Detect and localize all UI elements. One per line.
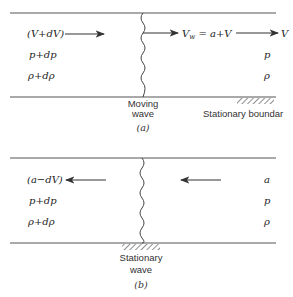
velocity-label-left-a: (V+dV): [27, 28, 64, 39]
caption-b: (b): [134, 279, 148, 290]
moving-wave-front: [141, 13, 145, 97]
density-label-right-a: ρ: [263, 70, 270, 81]
caption-a: (a): [136, 122, 149, 133]
wave-velocity-label: Vw = a+V: [182, 28, 233, 41]
stationary-boundary-hatch: [237, 98, 274, 104]
stationary-wave-label-line1: Stationary: [120, 252, 163, 263]
pressure-label-right-a: p: [264, 49, 271, 60]
stationary-wave-label-line2: wave: [129, 264, 152, 275]
pressure-label-left-b: p+dp: [29, 195, 57, 206]
pressure-label-left-a: p+dp: [29, 49, 57, 60]
panel-b: (a−dV) p+dp ρ+dρ a p ρ Stationary wave (…: [10, 158, 276, 290]
velocity-label-right-a: V: [281, 28, 290, 39]
panel-a: (V+dV) p+dp ρ+dρ Vw = a+V V p ρ Moving w…: [10, 13, 290, 133]
velocity-label-left-b: (a−dV): [27, 174, 63, 185]
velocity-label-right-b: a: [264, 174, 270, 185]
density-label-right-b: ρ: [263, 216, 270, 227]
shock-wave-diagram: (V+dV) p+dp ρ+dρ Vw = a+V V p ρ Moving w…: [0, 0, 293, 297]
stationary-wave-hatch: [122, 244, 160, 250]
density-label-left-b: ρ+dρ: [27, 216, 55, 227]
stationary-boundary-label: Stationary boundar: [203, 108, 283, 119]
pressure-label-right-b: p: [264, 195, 271, 206]
moving-wave-label-line2: wave: [131, 108, 154, 119]
stationary-wave-front: [140, 158, 144, 243]
density-label-left-a: ρ+dρ: [27, 70, 55, 81]
